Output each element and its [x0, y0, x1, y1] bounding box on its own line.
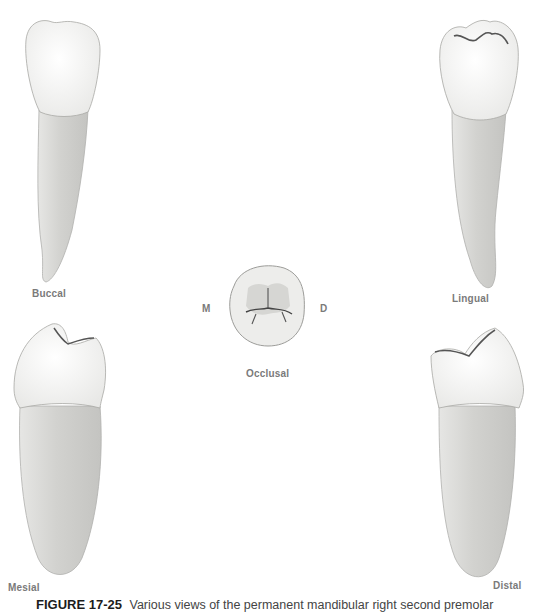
distal-view: Distal	[425, 322, 535, 587]
mesial-tooth-illustration	[8, 318, 118, 583]
distal-label: Distal	[493, 580, 521, 591]
mesial-view: Mesial	[8, 318, 118, 583]
occlusal-tooth-illustration	[224, 258, 314, 353]
figure-number: FIGURE 17-25	[36, 597, 122, 612]
occlusal-view: Occlusal	[224, 258, 314, 353]
occlusal-label: Occlusal	[246, 368, 289, 379]
lingual-tooth-illustration	[430, 10, 530, 295]
buccal-tooth-illustration	[14, 10, 114, 290]
buccal-view: Buccal	[14, 10, 114, 290]
distal-direction-marker: D	[320, 303, 327, 314]
mesial-label: Mesial	[8, 582, 40, 593]
distal-tooth-illustration	[425, 322, 535, 587]
lingual-label: Lingual	[452, 293, 489, 304]
figure-caption: FIGURE 17-25 Various views of the perman…	[36, 597, 493, 612]
buccal-label: Buccal	[32, 288, 66, 299]
lingual-view: Lingual	[430, 10, 530, 295]
figure-caption-text: Various views of the permanent mandibula…	[129, 598, 493, 612]
mesial-direction-marker: M	[202, 303, 211, 314]
